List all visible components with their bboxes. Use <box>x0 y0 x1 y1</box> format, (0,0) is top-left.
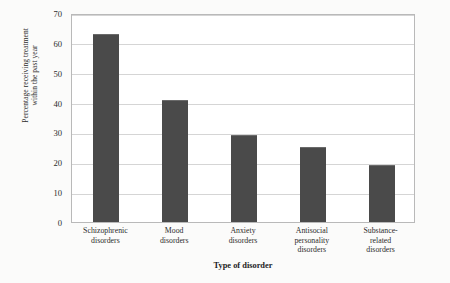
y-axis-tick-label: 60 <box>53 39 62 49</box>
x-axis-category-label-line: disorders <box>207 236 279 246</box>
x-axis-title: Type of disorder <box>71 261 415 270</box>
gridline <box>72 44 414 45</box>
x-axis-category-label-line: Mood <box>138 226 210 236</box>
gridline <box>72 74 414 75</box>
y-axis-tick-label: 50 <box>53 69 62 79</box>
gridline <box>72 15 414 16</box>
bar <box>300 147 326 222</box>
x-axis-category-labels: SchizophrenicdisordersMooddisordersAnxie… <box>71 226 415 266</box>
x-axis-category-label-line: disorders <box>345 245 417 255</box>
x-axis-category-label-line: Antisocial <box>276 226 348 236</box>
x-axis-category-label-line: Schizophrenic <box>69 226 141 236</box>
x-axis-category-label-line: disorders <box>69 236 141 246</box>
y-axis-tick-label: 70 <box>53 9 62 19</box>
y-axis-tick-label: 20 <box>53 158 62 168</box>
x-axis-category-label-line: related <box>345 236 417 246</box>
y-axis-tick-label: 30 <box>53 128 62 138</box>
x-axis-category-label: Schizophrenicdisorders <box>69 226 141 245</box>
y-axis-tick-label: 0 <box>58 218 62 228</box>
x-axis-category-label-line: Substance- <box>345 226 417 236</box>
x-axis-category-label: Anxietydisorders <box>207 226 279 245</box>
x-axis-category-label-line: personality <box>276 236 348 246</box>
x-axis-category-label-line: disorders <box>138 236 210 246</box>
x-axis-category-label-line: Anxiety <box>207 226 279 236</box>
gridline <box>72 104 414 105</box>
x-axis-category-label: Mooddisorders <box>138 226 210 245</box>
chart-figure: Percentage receiving treatment within th… <box>0 0 450 283</box>
bar <box>93 34 119 222</box>
bar <box>231 135 257 222</box>
bar <box>162 100 188 222</box>
y-axis-tick-label: 10 <box>53 188 62 198</box>
x-axis-category-label-line: disorders <box>276 245 348 255</box>
x-axis-category-label: Substance-relateddisorders <box>345 226 417 255</box>
y-axis-tick-labels: 010203040506070 <box>0 0 68 283</box>
bar <box>369 165 395 222</box>
x-axis-category-label: Antisocialpersonalitydisorders <box>276 226 348 255</box>
y-axis-tick-label: 40 <box>53 99 62 109</box>
plot-area <box>71 14 415 223</box>
